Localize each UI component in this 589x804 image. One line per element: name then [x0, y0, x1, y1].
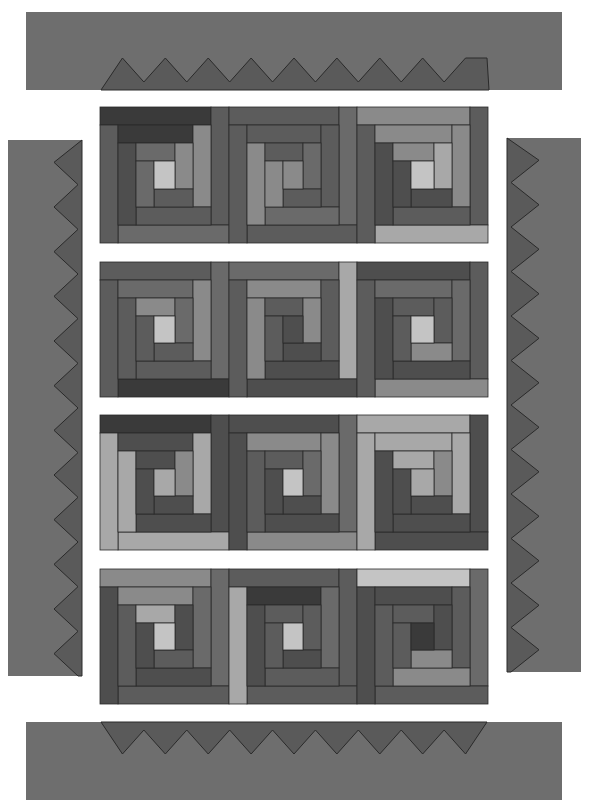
log-cabin-block: [229, 415, 357, 550]
quilt-row-1: [100, 107, 488, 243]
log-cabin-block: [100, 569, 229, 704]
border-bottom: [26, 722, 562, 800]
log-cabin-block: [357, 415, 488, 550]
quilt-row-3: [100, 415, 488, 550]
quilt-row-2: [100, 262, 488, 397]
quilt-rows: [100, 107, 488, 704]
log-cabin-block: [357, 107, 488, 243]
log-cabin-block: [229, 107, 357, 243]
log-cabin-block: [100, 262, 229, 397]
log-cabin-block: [357, 569, 488, 704]
log-cabin-block: [100, 415, 229, 550]
border-right: [507, 138, 581, 672]
border-left: [8, 140, 82, 676]
log-cabin-block: [229, 569, 357, 704]
quilt-layout-diagram: [0, 0, 589, 804]
log-cabin-block: [100, 107, 229, 243]
quilt-row-4: [100, 569, 488, 704]
border-top: [26, 12, 562, 90]
log-cabin-block: [229, 262, 357, 397]
log-cabin-block: [357, 262, 488, 397]
